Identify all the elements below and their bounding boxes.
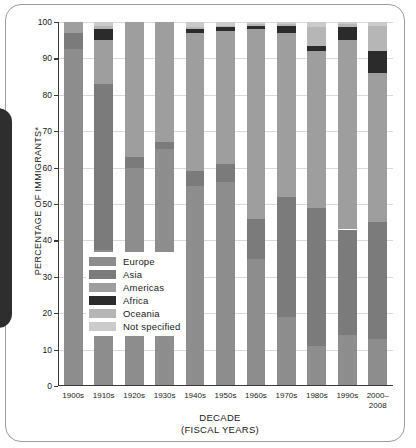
bar-segment[interactable]: [216, 182, 235, 386]
bar-segment[interactable]: [186, 186, 205, 386]
y-axis-tick-label: 80: [26, 90, 52, 100]
bar-segment[interactable]: [307, 27, 326, 45]
bar-segment[interactable]: [247, 22, 266, 24]
bar-segment[interactable]: [277, 317, 296, 386]
legend-label: Asia: [123, 269, 142, 280]
bar-segment[interactable]: [277, 33, 296, 197]
bar-segment[interactable]: [338, 335, 357, 386]
bar-segment[interactable]: [125, 157, 144, 167]
legend-label: Not specified: [123, 321, 181, 332]
y-axis-tick-label: 60: [26, 163, 52, 173]
bar-segment[interactable]: [368, 339, 387, 386]
x-axis-tick-label: 1980s: [306, 391, 328, 401]
bar-segment[interactable]: [186, 27, 205, 29]
bar-segment[interactable]: [64, 33, 83, 49]
bar-segment[interactable]: [368, 22, 387, 26]
bar-segment[interactable]: [338, 27, 357, 40]
legend-item[interactable]: Europe: [89, 255, 181, 268]
legend-swatch: [89, 283, 116, 292]
bar-segment[interactable]: [64, 22, 83, 33]
bar-segment[interactable]: [307, 51, 326, 208]
x-axis-tick-label: 2000–2008: [367, 391, 389, 411]
bar-segment[interactable]: [368, 73, 387, 222]
x-axis-tick-label: 1940s: [184, 391, 206, 401]
bar-segment[interactable]: [368, 26, 387, 51]
legend-item[interactable]: Africa: [89, 294, 181, 307]
bar-segment[interactable]: [247, 24, 266, 26]
page-edge-artifact: [0, 108, 12, 328]
y-axis-tick-label: 20: [26, 308, 52, 318]
legend-item[interactable]: Oceania: [89, 307, 181, 320]
legend-item[interactable]: Not specified: [89, 320, 181, 333]
bar-segment[interactable]: [338, 24, 357, 28]
bar-segment[interactable]: [307, 208, 326, 346]
bar-segment[interactable]: [94, 40, 113, 84]
bar-segment[interactable]: [216, 27, 235, 31]
x-axis-tick-label: 1950s: [215, 391, 237, 401]
bar-segment[interactable]: [247, 26, 266, 30]
bar-segment[interactable]: [307, 346, 326, 386]
legend-item[interactable]: Asia: [89, 268, 181, 281]
x-axis-tick-label: 1960s: [245, 391, 267, 401]
bar-segment[interactable]: [247, 219, 266, 259]
bar-segment[interactable]: [277, 197, 296, 317]
bar-column[interactable]: 1940s: [186, 22, 205, 386]
bar-segment[interactable]: [94, 29, 113, 40]
bar-segment[interactable]: [186, 33, 205, 171]
bar-stack: [307, 22, 326, 386]
y-axis-tick-label: 40: [26, 235, 52, 245]
bar-segment[interactable]: [277, 24, 296, 26]
bar-column[interactable]: 1980s: [307, 22, 326, 386]
bar-stack: [368, 22, 387, 386]
bar-column[interactable]: 1950s: [216, 22, 235, 386]
y-axis-tick: [54, 386, 58, 387]
bar-column[interactable]: 1960s: [247, 22, 266, 386]
x-axis-tick-label: 1910s: [93, 391, 115, 401]
legend-label: Europe: [123, 256, 155, 267]
bar-segment[interactable]: [277, 26, 296, 33]
bar-stack: [64, 22, 83, 386]
legend-item[interactable]: Americas: [89, 281, 181, 294]
chart-legend: EuropeAsiaAmericasAfricaOceaniaNot speci…: [86, 252, 186, 336]
bar-segment[interactable]: [368, 51, 387, 73]
bar-column[interactable]: 1900s: [64, 22, 83, 386]
bar-stack: [247, 22, 266, 386]
bar-segment[interactable]: [338, 40, 357, 229]
bar-segment[interactable]: [247, 29, 266, 218]
bar-segment[interactable]: [368, 222, 387, 338]
bar-segment[interactable]: [216, 164, 235, 182]
x-axis-tick-label: 1920s: [123, 391, 145, 401]
bar-segment[interactable]: [338, 230, 357, 336]
bar-segment[interactable]: [94, 84, 113, 250]
bar-stack: [277, 22, 296, 386]
bar-segment[interactable]: [155, 22, 174, 142]
bar-segment[interactable]: [94, 26, 113, 30]
legend-swatch: [89, 296, 116, 305]
legend-swatch: [89, 309, 116, 318]
bar-segment[interactable]: [186, 29, 205, 33]
bar-column[interactable]: 1970s: [277, 22, 296, 386]
bar-segment[interactable]: [338, 22, 357, 24]
y-axis-tick-label: 30: [26, 272, 52, 282]
bar-segment[interactable]: [125, 22, 144, 157]
bar-segment[interactable]: [216, 22, 235, 26]
bar-segment[interactable]: [307, 22, 326, 27]
bar-segment[interactable]: [216, 31, 235, 164]
bar-segment[interactable]: [64, 49, 83, 386]
y-axis-tick-label: 100: [26, 17, 52, 27]
bar-segment[interactable]: [155, 142, 174, 149]
bar-column[interactable]: 1990s: [338, 22, 357, 386]
bar-stack: [186, 22, 205, 386]
bar-segment[interactable]: [216, 26, 235, 28]
y-axis-tick-label: 50: [26, 199, 52, 209]
y-axis-tick-label: 0: [26, 381, 52, 391]
bar-column[interactable]: 2000–2008: [368, 22, 387, 386]
bar-segment[interactable]: [247, 259, 266, 386]
bar-segment[interactable]: [277, 22, 296, 24]
bar-segment[interactable]: [307, 46, 326, 51]
y-axis-tick-label: 70: [26, 126, 52, 136]
bar-segment[interactable]: [94, 22, 113, 26]
bar-segment[interactable]: [186, 22, 205, 27]
x-axis-tick-label: 1990s: [336, 391, 358, 401]
bar-segment[interactable]: [186, 171, 205, 186]
